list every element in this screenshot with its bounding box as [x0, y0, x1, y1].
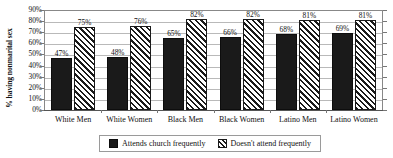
bar-group: 65%82% — [157, 10, 213, 110]
bar: 68% — [276, 34, 297, 110]
bar: 48% — [107, 57, 128, 110]
legend-label: Doesn't attend frequently — [231, 139, 312, 149]
x-axis-category-labels: White MenWhite WomenBlack MenBlack Women… — [45, 113, 382, 127]
bar-group: 48%76% — [101, 10, 157, 110]
x-axis-category-label: Black Men — [157, 113, 213, 127]
y-axis-tick-labels: 90%80%70%60%50%40%30%20%10%0% — [14, 6, 42, 111]
bar: 47% — [51, 58, 72, 110]
bar-value-label: 76% — [134, 17, 148, 26]
legend-item[interactable]: Doesn't attend frequently — [218, 139, 312, 149]
y-axis-tick-label: 80% — [14, 17, 42, 25]
bar-value-label: 65% — [167, 29, 181, 38]
bar-value-label: 81% — [302, 11, 316, 20]
y-axis-tick-label: 20% — [14, 84, 42, 92]
bar-group: 69%81% — [326, 10, 382, 110]
x-axis-category-label: White Women — [101, 113, 157, 127]
bar-value-label: 81% — [359, 11, 373, 20]
y-axis-tick-label: 60% — [14, 39, 42, 47]
legend-swatch-solid-icon — [109, 139, 118, 148]
bar-value-label: 68% — [279, 25, 293, 34]
y-axis-tick-label: 30% — [14, 73, 42, 81]
y-axis-tick-label: 10% — [14, 95, 42, 103]
legend-item[interactable]: Attends church frequently — [109, 139, 206, 149]
x-axis-category-label: Latino Men — [270, 113, 326, 127]
bar-value-label: 82% — [246, 10, 260, 19]
x-axis-category-label: White Men — [45, 113, 101, 127]
y-axis-tick-label: 40% — [14, 62, 42, 70]
bar-group: 66%82% — [214, 10, 270, 110]
bar: 75% — [74, 27, 95, 110]
legend-label: Attends church frequently — [122, 139, 206, 149]
x-axis-category-label: Black Women — [214, 113, 270, 127]
x-axis-category-label: Latino Women — [326, 113, 382, 127]
bar-group: 47%75% — [45, 10, 101, 110]
bar-group: 68%81% — [270, 10, 326, 110]
bar: 65% — [163, 38, 184, 110]
bar-value-label: 48% — [111, 48, 125, 57]
bar-value-label: 82% — [190, 10, 204, 19]
y-axis-tick-label: 50% — [14, 50, 42, 58]
bar: 82% — [243, 19, 264, 110]
y-axis-tick-label: 70% — [14, 28, 42, 36]
bar: 66% — [220, 37, 241, 110]
bar: 69% — [332, 33, 353, 110]
chart-legend: Attends church frequentlyDoesn't attend … — [99, 135, 321, 152]
y-axis-tick-label: 0% — [14, 106, 42, 114]
bar-value-label: 66% — [223, 28, 237, 37]
bar: 81% — [299, 20, 320, 110]
legend-swatch-hatched-icon — [218, 139, 227, 148]
bar-value-label: 75% — [78, 18, 92, 27]
y-axis-tick-label: 90% — [14, 6, 42, 14]
bar-value-label: 69% — [336, 24, 350, 33]
bar-value-label: 47% — [55, 49, 69, 58]
bar: 76% — [130, 26, 151, 110]
bar-chart: % having nonmarital sex 90%80%70%60%50%4… — [0, 0, 393, 158]
bar: 82% — [186, 19, 207, 110]
bar: 81% — [355, 20, 376, 110]
bar-groups: 47%75%48%76%65%82%66%82%68%81%69%81% — [45, 10, 382, 110]
